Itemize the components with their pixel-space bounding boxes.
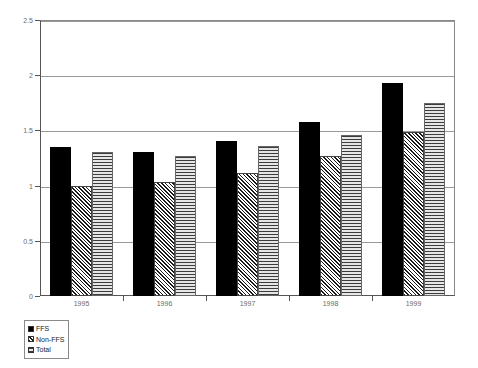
y-axis-tick-label: 0 [29, 293, 33, 300]
y-axis-tick-mark [35, 75, 40, 76]
gridline [41, 131, 454, 132]
y-axis: 00.511.522.5 [0, 20, 33, 296]
x-axis-tick-mark [372, 296, 373, 301]
legend-swatch-icon [28, 326, 34, 332]
y-axis-tick-label: 1 [29, 182, 33, 189]
legend-label: Non-FFS [36, 336, 64, 343]
y-axis-tick-mark [35, 186, 40, 187]
legend-label: Total [36, 346, 51, 353]
x-axis-tick-mark [289, 296, 290, 301]
y-axis-tick-mark [35, 20, 40, 21]
legend-item-total[interactable]: Total [28, 345, 64, 355]
x-axis-tick-label: 1995 [74, 300, 90, 307]
gridline [41, 21, 454, 22]
x-axis-tick-mark [123, 296, 124, 301]
gridline [41, 242, 454, 243]
x-axis-tick-label: 1996 [157, 300, 173, 307]
gridline [41, 76, 454, 77]
legend-item-non-ffs[interactable]: Non-FFS [28, 334, 64, 344]
y-axis-tick-label: 0.5 [23, 237, 33, 244]
plot-area [40, 20, 455, 296]
y-axis-tick-mark [35, 130, 40, 131]
legend-item-ffs[interactable]: FFS [28, 324, 64, 334]
legend-swatch-icon [28, 347, 34, 353]
chart-legend: FFSNon-FFSTotal [24, 320, 69, 359]
legend-swatch-icon [28, 336, 34, 342]
x-axis-tick-label: 1998 [323, 300, 339, 307]
x-axis-tick-label: 1999 [406, 300, 422, 307]
y-axis-tick-label: 2 [29, 72, 33, 79]
x-axis-tick-label: 1997 [240, 300, 256, 307]
bar-chart: 00.511.522.5 19951996199719981999 FFSNon… [0, 0, 478, 368]
y-axis-tick-label: 2.5 [23, 17, 33, 24]
y-axis-tick-mark [35, 296, 40, 297]
y-axis-tick-mark [35, 241, 40, 242]
gridline [41, 187, 454, 188]
x-axis: 19951996199719981999 [40, 300, 455, 316]
legend-label: FFS [36, 325, 49, 332]
y-axis-tick-label: 1.5 [23, 127, 33, 134]
x-axis-tick-mark [206, 296, 207, 301]
